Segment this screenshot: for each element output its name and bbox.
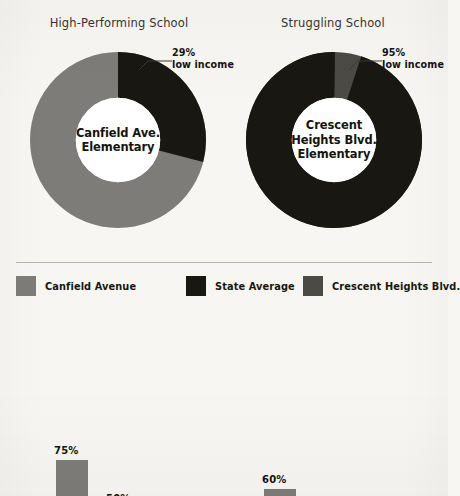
legend-swatch-icon [186,276,206,296]
legend-item-label: State Average [215,281,295,292]
legend-item-label: Canfield Avenue [45,281,136,292]
donut-right-title: Struggling School [226,0,440,30]
donut-right-callout-label: low income [382,59,444,71]
donut-right-wrap: Crescent Heights Blvd. Elementary [246,52,422,228]
donut-left-callout-value: 29% [172,47,234,59]
legend-item-label: Crescent Heights Blvd. [332,281,460,292]
bar-chart: 75% 50% 34% 60% 39% 28% [0,330,448,496]
donut-left-callout: 29% low income [172,47,234,70]
donut-panel-high-performing: High-Performing School Canfield Ave. Ele… [14,0,224,228]
donut-right-chart [246,52,422,228]
legend-item-state-average: State Average [186,276,295,296]
donut-left-title: High-Performing School [14,0,224,30]
bar-value-label: 75% [54,445,96,456]
donut-right-callout-value: 95% [382,47,444,59]
section-divider [16,262,432,263]
bar-value-label: 60% [262,474,304,485]
donut-right-callout: 95% low income [382,47,444,70]
donut-charts-section: High-Performing School Canfield Ave. Ele… [0,0,448,262]
donut-panel-struggling: Struggling School Crescent Heights Blvd.… [226,0,440,228]
legend-swatch-icon [303,276,323,296]
legend-item-crescent-heights: Crescent Heights Blvd. [303,276,460,296]
bar-rect [56,460,88,496]
bar-rect [264,489,296,496]
legend-item-canfield-avenue: Canfield Avenue [16,276,136,296]
donut-left-chart [30,52,206,228]
chart-legend: Canfield Avenue State Average Crescent H… [16,276,436,298]
legend-swatch-icon [16,276,36,296]
donut-left-callout-label: low income [172,59,234,71]
donut-left-wrap: Canfield Ave. Elementary [30,52,206,228]
